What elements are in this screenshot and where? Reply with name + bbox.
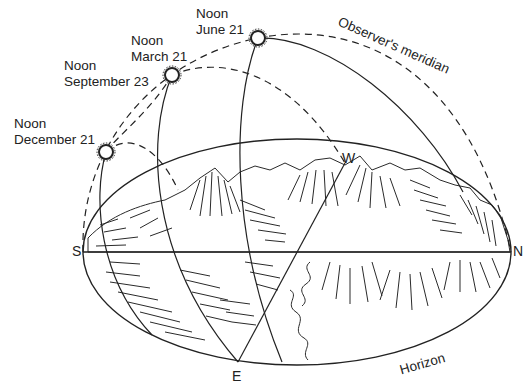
sun-icon xyxy=(163,66,181,84)
sun-path-december-west xyxy=(106,143,178,190)
label-line: Noon xyxy=(196,6,244,22)
terrain xyxy=(88,156,510,360)
label-september-23: Noon September 23 xyxy=(64,58,149,90)
label-line: December 21 xyxy=(14,132,95,148)
label-june-21: Noon June 21 xyxy=(196,6,244,38)
label-line: Noon xyxy=(14,116,95,132)
sun-path-equinox-west xyxy=(172,67,345,163)
label-line: Noon xyxy=(131,33,187,49)
label-line: June 21 xyxy=(196,22,244,38)
sun-icon xyxy=(249,29,267,47)
label-line: September 23 xyxy=(64,74,149,90)
label-december-21: Noon December 21 xyxy=(14,116,95,148)
sun-icon xyxy=(97,143,115,161)
sun-path-diagram: Noon June 21 Noon March 21 Noon Septembe… xyxy=(0,0,524,390)
north-label: N xyxy=(513,243,523,259)
south-label: S xyxy=(72,243,81,259)
west-label: W xyxy=(342,150,355,166)
east-label: E xyxy=(232,368,241,384)
label-line: Noon xyxy=(64,58,149,74)
